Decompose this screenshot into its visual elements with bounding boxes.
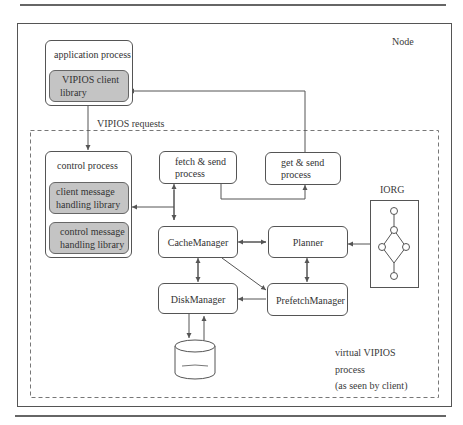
virtual-process-label-line3: (as seen by client) — [335, 380, 407, 392]
planner-box: Planner — [268, 226, 348, 258]
disk-manager-box: DiskManager — [158, 283, 238, 314]
requests-label: VIPIOS requests — [97, 118, 165, 130]
prefetch-manager-box: PrefetchManager — [267, 283, 348, 316]
fetch-to-get-arrow — [221, 183, 305, 199]
iorg-label: IORG — [380, 184, 404, 196]
fetch-send-process-box: fetch & send process — [159, 151, 237, 184]
virtual-process-label-line2: process — [335, 364, 365, 376]
application-process-title: application process — [54, 49, 131, 61]
control-message-handling-library: control message handling library — [49, 222, 129, 254]
disk-storage-icon — [175, 340, 215, 379]
client-message-handling-library: client message handling library — [49, 182, 129, 214]
node-label: Node — [392, 36, 414, 48]
vipios-client-library: VIPIOS client library — [49, 70, 129, 102]
cache-manager-box: CacheManager — [158, 226, 238, 258]
virtual-process-label-line1: virtual VIPIOS — [335, 347, 396, 359]
get-send-process-box: get & send process — [265, 152, 341, 185]
control-process-title: control process — [57, 160, 118, 172]
